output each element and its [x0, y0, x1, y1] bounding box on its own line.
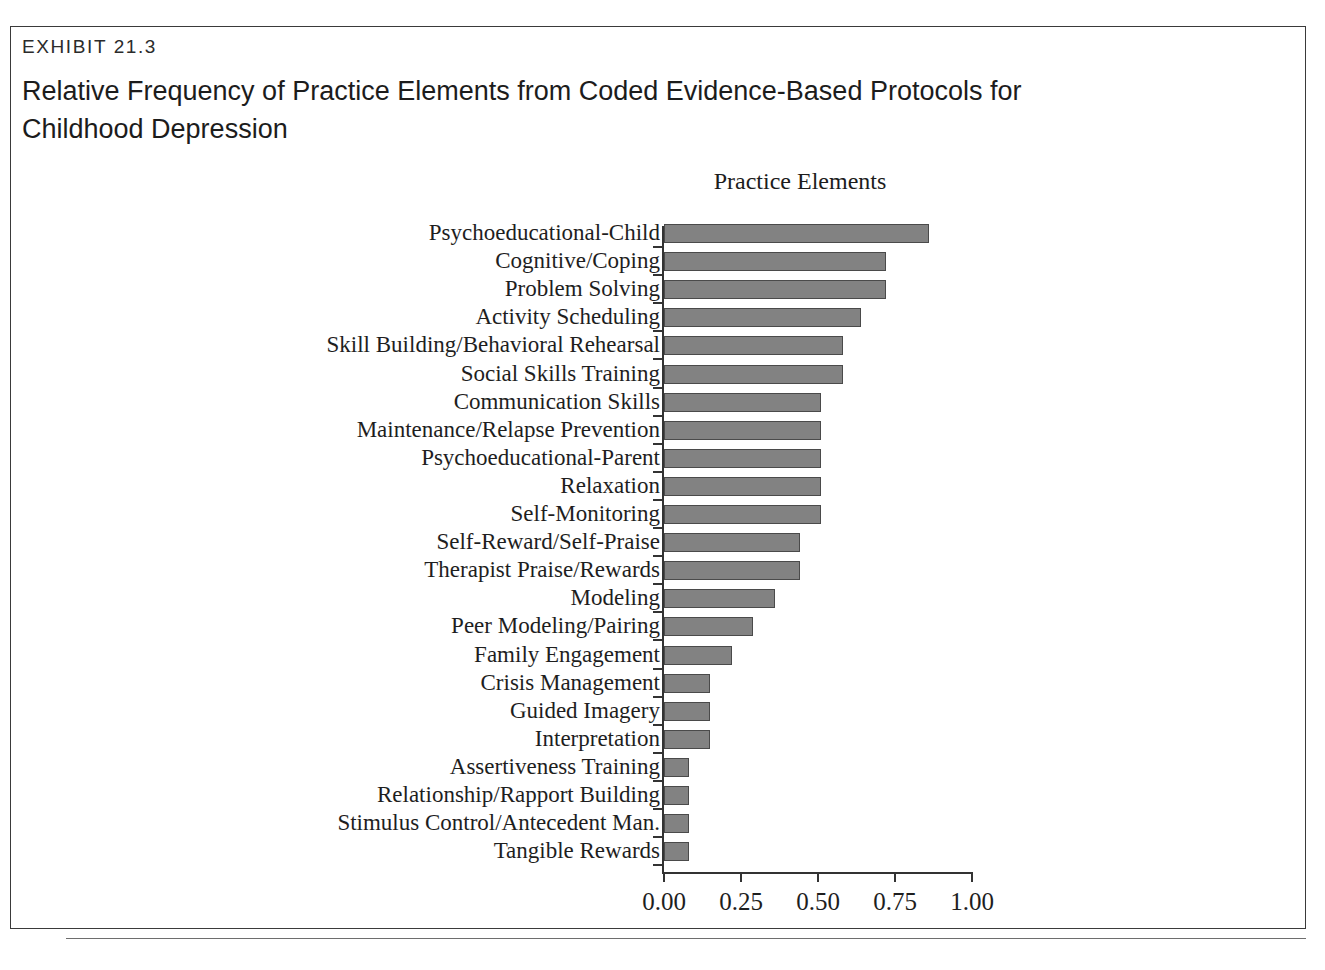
bar: [664, 336, 843, 355]
bar: [664, 617, 753, 636]
y-axis-tick: [653, 443, 662, 445]
bar: [664, 758, 689, 777]
category-label: Modeling: [60, 586, 660, 609]
y-axis-tick: [653, 471, 662, 473]
category-label: Assertiveness Training: [60, 755, 660, 778]
bar-chart-plot: Psychoeducational-ChildCognitive/CopingP…: [0, 200, 1290, 900]
bar: [664, 702, 710, 721]
bar: [664, 421, 821, 440]
bar: [664, 533, 800, 552]
bars-and-axes: 0.000.250.500.751.00: [662, 200, 1062, 900]
category-label: Peer Modeling/Pairing: [60, 614, 660, 637]
category-label: Psychoeducational-Parent: [60, 446, 660, 469]
bar: [664, 786, 689, 805]
category-label: Self-Reward/Self-Praise: [60, 530, 660, 553]
y-axis-tick: [653, 330, 662, 332]
y-axis-tick: [653, 611, 662, 613]
category-label: Skill Building/Behavioral Rehearsal: [60, 333, 660, 356]
category-label: Family Engagement: [60, 643, 660, 666]
category-label: Relationship/Rapport Building: [60, 783, 660, 806]
bar: [664, 365, 843, 384]
y-axis-tick: [653, 780, 662, 782]
y-axis-tick: [653, 724, 662, 726]
bar: [664, 674, 710, 693]
y-axis-tick: [653, 668, 662, 670]
bar: [664, 280, 886, 299]
bottom-rule: [66, 938, 1306, 939]
category-label: Crisis Management: [60, 671, 660, 694]
y-axis-tick: [653, 808, 662, 810]
category-label: Tangible Rewards: [60, 839, 660, 862]
y-axis-tick: [653, 864, 662, 866]
bar: [664, 505, 821, 524]
category-label: Problem Solving: [60, 277, 660, 300]
category-label: Psychoeducational-Child: [60, 221, 660, 244]
bar: [664, 730, 710, 749]
category-label: Relaxation: [60, 474, 660, 497]
bar: [664, 252, 886, 271]
y-axis-tick: [653, 387, 662, 389]
category-label: Interpretation: [60, 727, 660, 750]
x-axis-tick: [740, 872, 742, 882]
y-axis-tick: [653, 302, 662, 304]
category-label: Maintenance/Relapse Prevention: [60, 418, 660, 441]
y-axis-tick: [653, 499, 662, 501]
bar: [664, 561, 800, 580]
category-label: Social Skills Training: [60, 362, 660, 385]
x-axis-tick: [971, 872, 973, 882]
category-label: Communication Skills: [60, 390, 660, 413]
category-label: Activity Scheduling: [60, 305, 660, 328]
category-label: Guided Imagery: [60, 699, 660, 722]
bar: [664, 308, 861, 327]
category-label: Therapist Praise/Rewards: [60, 558, 660, 581]
bar: [664, 393, 821, 412]
y-axis-tick: [653, 246, 662, 248]
y-axis-tick: [653, 527, 662, 529]
x-axis-tick: [817, 872, 819, 882]
x-axis-tick: [894, 872, 896, 882]
bar: [664, 814, 689, 833]
chart-area: Practice Elements Psychoeducational-Chil…: [0, 0, 1296, 903]
y-axis-tick: [653, 639, 662, 641]
bar: [664, 842, 689, 861]
y-axis-tick: [653, 274, 662, 276]
bar: [664, 589, 775, 608]
y-axis-tick: [653, 752, 662, 754]
chart-title: Practice Elements: [600, 168, 1000, 195]
y-axis-tick: [653, 555, 662, 557]
bar: [664, 477, 821, 496]
bar: [664, 646, 732, 665]
y-axis-tick: [653, 583, 662, 585]
category-label: Stimulus Control/Antecedent Man.: [60, 811, 660, 834]
x-axis-tick: [663, 872, 665, 882]
category-axis-labels: Psychoeducational-ChildCognitive/CopingP…: [40, 200, 660, 900]
x-axis-tick-label: 1.00: [927, 888, 1017, 916]
bar: [664, 449, 821, 468]
y-axis-tick: [653, 696, 662, 698]
bar: [664, 224, 929, 243]
category-label: Cognitive/Coping: [60, 249, 660, 272]
y-axis-tick: [653, 836, 662, 838]
y-axis-tick: [653, 415, 662, 417]
category-label: Self-Monitoring: [60, 502, 660, 525]
y-axis-tick: [653, 358, 662, 360]
